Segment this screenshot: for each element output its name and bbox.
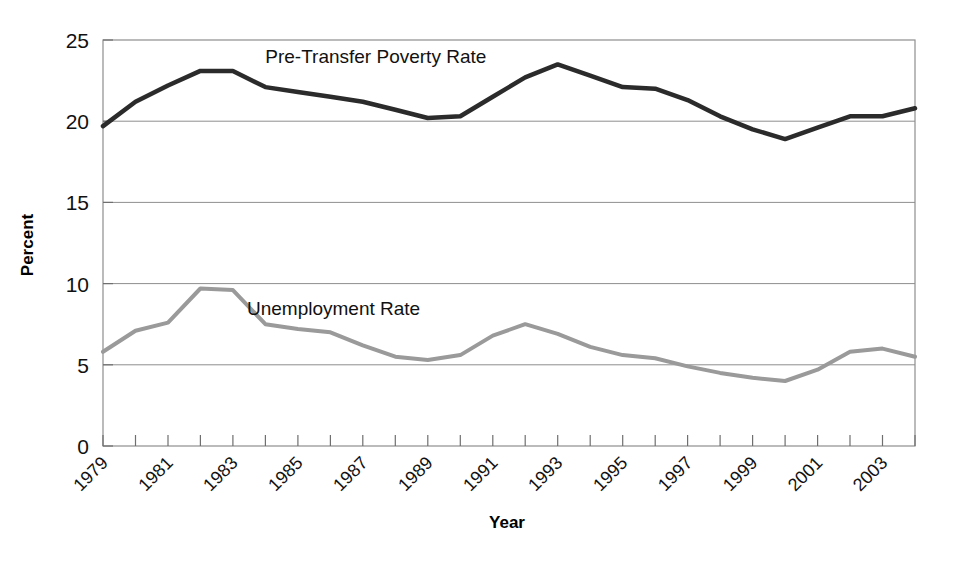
line-chart: 0510152025 19791981198319851987198919911… <box>0 0 955 562</box>
x-axis-title: Year <box>489 513 525 532</box>
y-tick-label-0: 0 <box>77 435 89 458</box>
y-tick-label-15: 15 <box>66 191 89 214</box>
y-tick-label-20: 20 <box>66 110 89 133</box>
chart-container: 0510152025 19791981198319851987198919911… <box>0 0 955 562</box>
y-tick-label-5: 5 <box>77 354 89 377</box>
y-axis-title: Percent <box>18 213 37 276</box>
y-tick-label-25: 25 <box>66 29 89 52</box>
series-label-unemployment-rate: Unemployment Rate <box>247 298 420 319</box>
y-tick-label-10: 10 <box>66 273 89 296</box>
series-label-poverty-rate: Pre-Transfer Poverty Rate <box>265 46 486 67</box>
